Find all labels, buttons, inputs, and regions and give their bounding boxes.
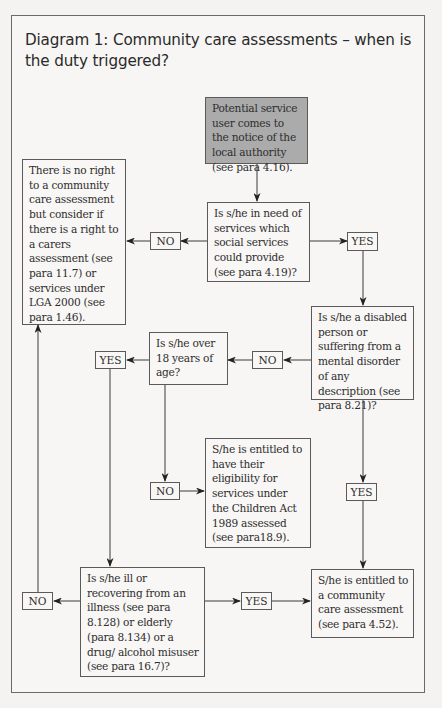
label-yes-need-services: YES — [347, 232, 378, 251]
label-no-need-services: NO — [150, 232, 181, 250]
label-yes-over-18: YES — [95, 351, 126, 369]
label-yes-disabled: YES — [346, 483, 377, 501]
node-question-disabled: Is s/he a disabled person or suffering f… — [311, 306, 414, 400]
node-question-need-services: Is s/he in need of services which social… — [207, 202, 310, 282]
node-entitled-assessment: S/he is entitled to a community care ass… — [311, 569, 414, 638]
node-no-right-to-assessment: There is no right to a community care as… — [22, 159, 126, 325]
label-no-ill-elderly: NO — [22, 592, 53, 610]
label-no-disabled: NO — [252, 351, 283, 369]
node-children-act: S/he is entitled to have their eligibili… — [205, 438, 311, 548]
node-question-ill-elderly: Is s/he ill or recovering from an illnes… — [80, 567, 205, 677]
label-no-over-18: NO — [150, 482, 180, 500]
node-start: Potential service user comes to the noti… — [205, 97, 308, 164]
label-yes-ill-elderly: YES — [241, 592, 272, 610]
node-question-over-18: Is s/he over 18 years of age? — [149, 332, 228, 385]
